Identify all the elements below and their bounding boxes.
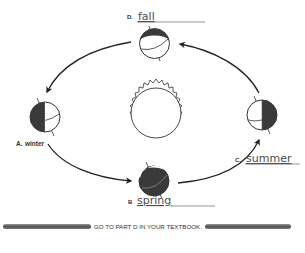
footer-instruction-text: GO TO PART D IN YOUR TEXTBOOK. (94, 223, 202, 230)
label-a: A. winter (16, 140, 45, 147)
footer-instruction: GO TO PART D IN YOUR TEXTBOOK. (3, 223, 291, 230)
answer-c-summer: summer (246, 152, 292, 165)
earth-fall-globe (140, 26, 170, 61)
label-a-letter: A. (16, 140, 23, 147)
earth-winter-globe (30, 98, 60, 136)
answer-b-spring: spring (137, 194, 171, 207)
seasons-orbit-diagram: D. fall A. winter C. summer B spring GO … (0, 0, 305, 253)
arrow-summer-to-fall (180, 44, 259, 93)
answer-a-winter: winter (24, 140, 45, 147)
label-b-letter: B (128, 199, 133, 205)
label-d: D. fall (127, 10, 205, 23)
label-b: B spring (128, 194, 215, 207)
arrow-fall-to-winter (47, 42, 131, 92)
sun-icon (130, 79, 182, 138)
answer-d-fall: fall (138, 10, 155, 23)
label-c-letter: C. (235, 157, 241, 163)
earth-summer-globe (247, 96, 277, 134)
label-d-letter: D. (127, 14, 133, 20)
footer-bar-right (205, 224, 291, 229)
arrow-winter-to-spring (48, 144, 131, 181)
footer-bar-left (3, 224, 91, 229)
